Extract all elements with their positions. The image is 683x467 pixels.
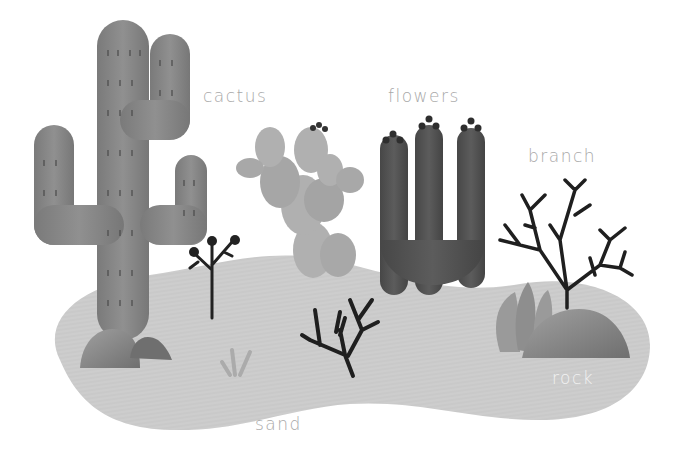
label-flowers: flowers bbox=[388, 86, 460, 106]
desert-scene-illustration bbox=[0, 0, 683, 467]
label-cactus: cactus bbox=[203, 86, 267, 106]
prickly-pear-cactus bbox=[236, 127, 364, 278]
label-sand: sand bbox=[255, 414, 302, 434]
label-rock: rock bbox=[552, 368, 594, 388]
label-branch: branch bbox=[528, 146, 596, 166]
flower-cactus bbox=[380, 125, 485, 295]
